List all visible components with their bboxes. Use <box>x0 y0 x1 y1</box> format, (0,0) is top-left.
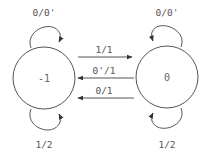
loop-arrow <box>152 108 182 128</box>
state-zero: 0 <box>136 46 198 108</box>
self-loop-minus-1-top: 0/0' <box>30 7 60 48</box>
transition-label: 0/0' <box>33 7 56 18</box>
transition-label: 0/1 <box>95 85 112 96</box>
state-diagram: -1 0 0/0' 1/2 0/0' 1/2 1/1 0'/1 0/1 <box>0 0 208 154</box>
transition-label: 1/2 <box>35 139 52 150</box>
self-loop-minus-1-bottom: 1/2 <box>30 109 60 150</box>
state-label: 0 <box>164 72 170 83</box>
transition-minus-1-to-zero: 1/1 <box>78 44 132 57</box>
loop-arrow <box>30 109 60 130</box>
transition-zero-to-minus-1-prime: 0'/1 <box>78 65 134 78</box>
state-label: -1 <box>38 73 50 84</box>
transition-label: 1/2 <box>158 139 175 150</box>
transition-label: 0/0' <box>156 7 179 18</box>
transition-zero-to-minus-1: 0/1 <box>78 85 134 98</box>
transition-label: 1/1 <box>95 44 112 55</box>
self-loop-zero-top: 0/0' <box>152 7 182 47</box>
transition-label: 0'/1 <box>93 65 116 76</box>
loop-arrow <box>152 26 182 47</box>
self-loop-zero-bottom: 1/2 <box>152 108 182 150</box>
loop-arrow <box>30 27 60 48</box>
state-minus-1: -1 <box>13 47 75 109</box>
